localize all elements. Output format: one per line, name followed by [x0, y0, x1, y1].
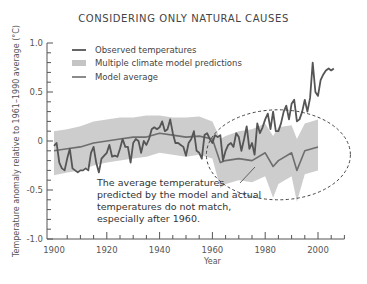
annotation-text-line: predicted by the model and actual — [97, 189, 261, 200]
x-axis-title: Year — [203, 257, 222, 266]
x-tick-label: 1900 — [43, 245, 65, 255]
x-tick-label: 1940 — [149, 245, 171, 255]
chart-plot: 1.00.50-0.5-1.0190019201940196019802000Y… — [0, 0, 367, 284]
legend-observed-label: Observed temperatures — [95, 45, 197, 55]
annotation-text-line: especially after 1960. — [97, 213, 200, 224]
legend-average-label: Model average — [95, 72, 158, 82]
y-tick-label: -1.0 — [26, 234, 43, 244]
y-tick-label: -0.5 — [26, 185, 43, 195]
legend-band-label: Multiple climate model predictions — [95, 58, 242, 68]
y-tick-label: 1.0 — [29, 38, 43, 48]
annotation-text-line: The average temperatures — [96, 177, 224, 188]
legend-band-swatch — [72, 60, 86, 66]
y-axis-title: Temperature anomaly relative to 1961–199… — [12, 25, 21, 258]
x-tick-label: 1920 — [96, 245, 118, 255]
x-tick-label: 2000 — [307, 245, 329, 255]
x-tick-label: 1960 — [202, 245, 224, 255]
annotation-text-line: temperatures do not match, — [97, 201, 231, 212]
y-tick-label: 0.5 — [29, 87, 43, 97]
x-tick-label: 1980 — [254, 245, 276, 255]
y-tick-label: 0 — [38, 136, 43, 146]
